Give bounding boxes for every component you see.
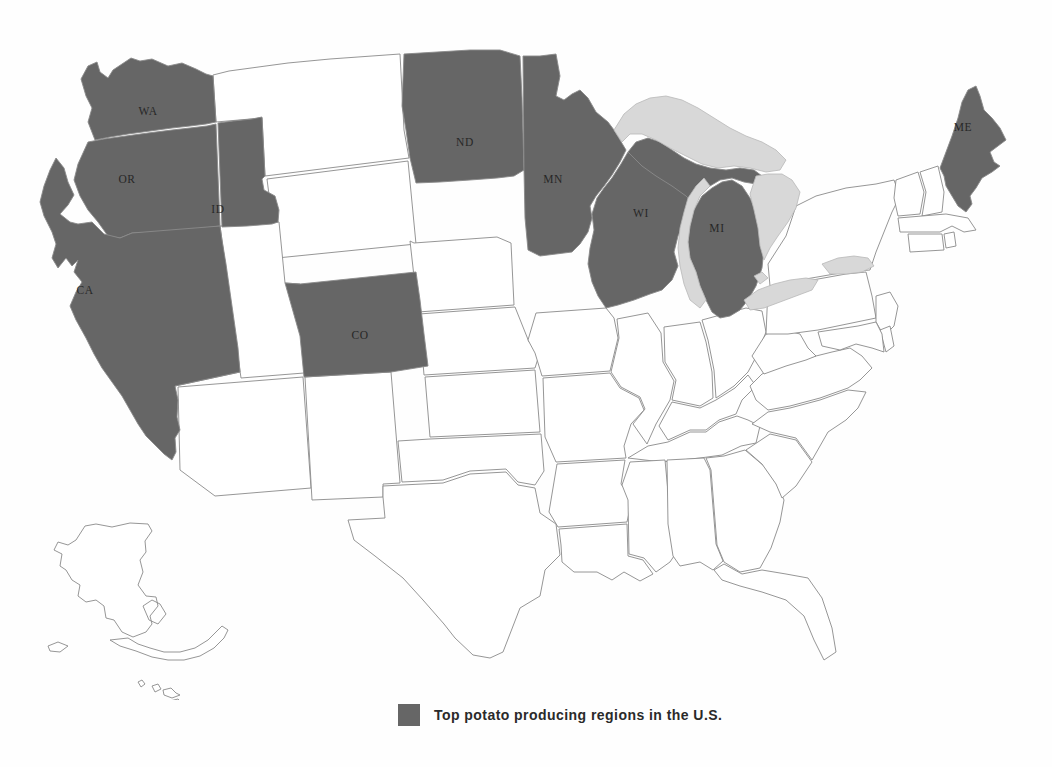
state-MA[interactable] [898, 214, 976, 232]
state-label-WA: WA [138, 105, 157, 117]
state-NM[interactable] [305, 372, 400, 500]
state-RI[interactable] [944, 232, 956, 248]
state-label-ME: ME [954, 121, 972, 133]
state-CT[interactable] [908, 234, 944, 252]
state-WY[interactable] [267, 161, 416, 258]
state-IA[interactable] [528, 308, 618, 376]
map-legend: Top potato producing regions in the U.S. [398, 704, 722, 726]
state-label-OR: OR [118, 173, 135, 185]
legend-label: Top potato producing regions in the U.S. [434, 707, 722, 723]
state-AR[interactable] [549, 460, 632, 527]
state-CO[interactable] [285, 272, 428, 377]
state-TX[interactable] [348, 472, 560, 658]
state-AZ[interactable] [178, 377, 311, 496]
state-label-CA: CA [76, 284, 93, 296]
state-SD[interactable] [410, 237, 514, 312]
state-OR[interactable] [74, 124, 220, 238]
state-ME[interactable] [940, 86, 1006, 212]
state-AK[interactable] [48, 523, 228, 660]
state-label-ID: ID [211, 203, 224, 215]
us-choropleth-map: WA OR ID CA CO ND MN WI MI ME [0, 0, 1052, 700]
state-label-WI: WI [633, 207, 649, 219]
state-label-CO: CO [351, 329, 368, 341]
state-label-ND: ND [456, 136, 474, 148]
state-NE[interactable] [419, 307, 540, 375]
state-label-MN: MN [543, 173, 563, 185]
state-FL[interactable] [714, 564, 836, 660]
state-VT[interactable] [894, 172, 924, 216]
state-KS[interactable] [425, 370, 540, 437]
legend-color-swatch [398, 704, 420, 726]
potato-production-map-figure: WA OR ID CA CO ND MN WI MI ME Top potato… [0, 0, 1052, 767]
state-ND[interactable] [402, 50, 524, 183]
state-label-MI: MI [709, 222, 724, 234]
state-HI[interactable] [138, 680, 203, 700]
